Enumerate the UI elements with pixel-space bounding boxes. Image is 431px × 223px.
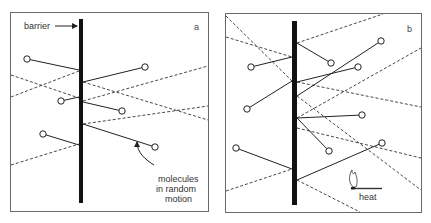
molecules-label-line3: motion bbox=[165, 194, 192, 204]
panel-b-frame bbox=[226, 14, 422, 213]
molecule-icon bbox=[244, 106, 250, 112]
molecules-label-line1: molecules bbox=[158, 174, 199, 184]
barrier-label: barrier bbox=[24, 21, 50, 31]
diffusion-diagram: barrier a molecules in random motion bbox=[0, 0, 431, 223]
molecule-icon bbox=[355, 64, 361, 70]
panel-b-barrier bbox=[292, 21, 297, 205]
molecule-icon bbox=[58, 98, 64, 104]
molecule-icon bbox=[379, 140, 385, 146]
heat-label: heat bbox=[359, 192, 377, 202]
panel-b: b heat bbox=[226, 14, 422, 213]
molecule-icon bbox=[328, 60, 334, 66]
panel-a-dashed-paths bbox=[11, 66, 208, 165]
panel-a-molecules bbox=[24, 56, 158, 150]
panel-b-letter: b bbox=[407, 24, 412, 34]
panel-b-molecule-tracks bbox=[236, 41, 382, 180]
molecule-icon bbox=[119, 108, 125, 114]
molecule-icon bbox=[326, 148, 332, 154]
molecule-icon bbox=[378, 38, 384, 44]
panel-a-letter: a bbox=[194, 22, 199, 32]
flame-icon bbox=[350, 170, 383, 190]
panel-b-molecules bbox=[233, 38, 385, 154]
molecule-icon bbox=[142, 64, 148, 70]
panel-a: barrier a molecules in random motion bbox=[11, 13, 209, 212]
panel-b-dashed-paths bbox=[226, 14, 421, 212]
molecule-icon bbox=[359, 112, 365, 118]
panel-a-barrier bbox=[79, 19, 83, 203]
molecule-icon bbox=[233, 145, 239, 151]
molecules-label-line2: in random bbox=[156, 184, 196, 194]
molecule-icon bbox=[152, 144, 158, 150]
molecule-icon bbox=[24, 56, 30, 62]
molecule-icon bbox=[40, 131, 46, 137]
molecule-icon bbox=[248, 64, 254, 70]
